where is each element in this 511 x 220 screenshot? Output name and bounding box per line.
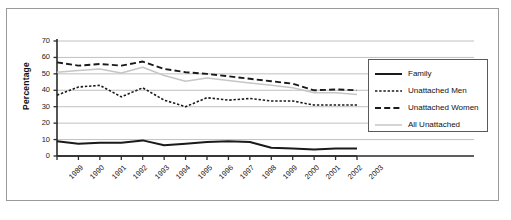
y-tick-label: 70	[30, 36, 50, 45]
y-tick-label: 30	[30, 102, 50, 111]
legend-swatch-icon	[375, 69, 402, 79]
legend-label: Unattached Women	[408, 103, 479, 113]
legend-item-family[interactable]: Family	[369, 65, 487, 82]
legend-item-all-unattached[interactable]: All Unattached	[369, 116, 487, 133]
legend-label: Family	[408, 69, 432, 79]
legend-label: Unattached Men	[408, 86, 467, 96]
legend-item-unattached-men[interactable]: Unattached Men	[369, 82, 487, 99]
y-tick-label: 40	[30, 85, 50, 94]
legend-swatch-icon	[375, 120, 402, 130]
y-tick-label: 50	[30, 69, 50, 78]
series-line-unattached-men	[57, 85, 357, 106]
y-tick-label: 60	[30, 52, 50, 61]
legend-item-unattached-women[interactable]: Unattached Women	[369, 99, 487, 116]
y-tick-label: 10	[30, 135, 50, 144]
series-line-family	[57, 140, 357, 149]
y-tick-label: 0	[30, 151, 50, 160]
legend-label: All Unattached	[408, 120, 460, 130]
legend-swatch-icon	[375, 86, 402, 96]
legend-swatch-icon	[375, 103, 402, 113]
chart-legend: FamilyUnattached MenUnattached WomenAll …	[368, 59, 488, 132]
figure-frame: Percentage FamilyUnattached MenUnattache…	[6, 8, 499, 201]
y-tick-label: 20	[30, 118, 50, 127]
chart-plot-area: Percentage FamilyUnattached MenUnattache…	[7, 9, 500, 202]
